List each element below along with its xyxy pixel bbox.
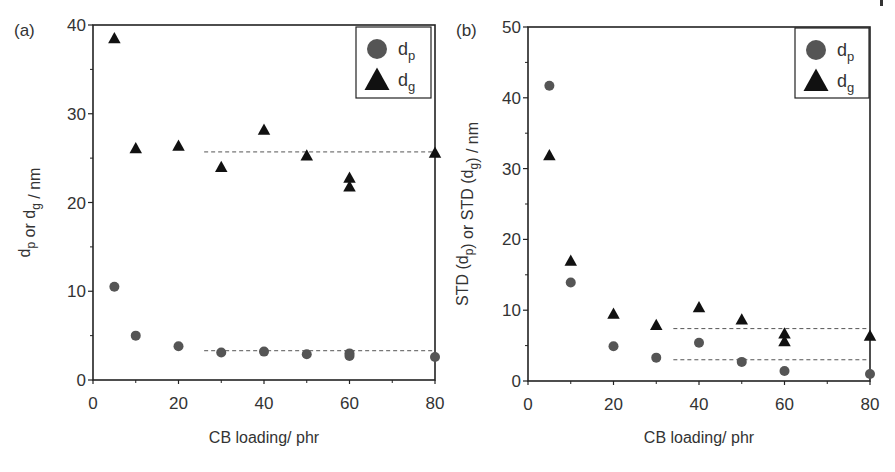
circle-marker-icon bbox=[174, 341, 184, 351]
y-axis-label: dp or dg / nm bbox=[16, 168, 43, 258]
circle-marker-icon bbox=[131, 331, 141, 341]
y-axis-label-part: ) / nm bbox=[464, 122, 481, 163]
x-tick-label: 60 bbox=[340, 394, 359, 413]
triangle-marker-icon bbox=[565, 254, 578, 265]
y-axis-label-subscript: g bbox=[467, 163, 481, 170]
triangle-marker-icon bbox=[736, 313, 749, 324]
x-tick-label: 40 bbox=[690, 395, 709, 414]
legend-circle-icon bbox=[367, 39, 387, 59]
y-tick-label: 10 bbox=[67, 282, 86, 301]
triangle-marker-icon bbox=[130, 142, 143, 153]
triangle-marker-icon bbox=[172, 139, 185, 150]
circle-marker-icon bbox=[109, 282, 119, 292]
y-axis-label-part: or d bbox=[21, 210, 38, 242]
y-tick-label: 20 bbox=[502, 230, 521, 249]
y-tick-label: 30 bbox=[502, 160, 521, 179]
triangle-marker-icon bbox=[543, 149, 556, 160]
legend-label-main: d bbox=[837, 71, 847, 91]
circle-marker-icon bbox=[609, 341, 619, 351]
y-axis-label-subscript: g bbox=[29, 203, 43, 210]
legend-label-subscript: p bbox=[408, 48, 415, 63]
triangle-marker-icon bbox=[108, 32, 121, 43]
legend-label-main: d bbox=[837, 40, 847, 60]
x-tick-label: 60 bbox=[775, 395, 794, 414]
x-tick-label: 20 bbox=[169, 394, 188, 413]
y-tick-label: 40 bbox=[67, 16, 86, 35]
legend-circle-icon bbox=[806, 40, 826, 60]
panel-b: 02040608001020304050CB loading/ phrSTD (… bbox=[454, 18, 879, 446]
series-d_p bbox=[109, 282, 440, 362]
panel-label: (b) bbox=[456, 21, 477, 40]
circle-marker-icon bbox=[216, 347, 226, 357]
circle-marker-icon bbox=[259, 347, 269, 357]
circle-marker-icon bbox=[651, 353, 661, 363]
y-tick-label: 10 bbox=[502, 301, 521, 320]
legend-label-main: d bbox=[398, 70, 408, 90]
circle-marker-icon bbox=[430, 352, 440, 362]
triangle-marker-icon bbox=[607, 307, 620, 318]
x-tick-label: 80 bbox=[426, 394, 445, 413]
series-d_p bbox=[544, 81, 875, 379]
x-tick-label: 40 bbox=[255, 394, 274, 413]
triangle-marker-icon bbox=[258, 123, 271, 134]
legend-label-subscript: g bbox=[847, 80, 854, 95]
panel-label: (a) bbox=[14, 21, 35, 40]
x-axis-label: CB loading/ phr bbox=[644, 429, 755, 446]
x-tick-label: 20 bbox=[604, 395, 623, 414]
panel-a: 020406080010203040CB loading/ phrdp or d… bbox=[14, 16, 444, 446]
y-tick-label: 20 bbox=[67, 194, 86, 213]
series-d_g bbox=[543, 149, 876, 346]
y-tick-label: 30 bbox=[67, 105, 86, 124]
y-tick-label: 50 bbox=[502, 18, 521, 37]
circle-marker-icon bbox=[737, 357, 747, 367]
y-tick-label: 0 bbox=[77, 371, 86, 390]
legend-label-subscript: g bbox=[408, 79, 415, 94]
legend-label-main: d bbox=[398, 39, 408, 59]
triangle-marker-icon bbox=[301, 149, 314, 160]
y-tick-label: 40 bbox=[502, 89, 521, 108]
triangle-marker-icon bbox=[215, 161, 228, 172]
x-axis-label: CB loading/ phr bbox=[209, 429, 320, 446]
circle-marker-icon bbox=[780, 366, 790, 376]
circle-marker-icon bbox=[566, 278, 576, 288]
legend: dpdg bbox=[795, 28, 869, 98]
y-axis-label-part: / nm bbox=[26, 168, 43, 204]
x-tick-label: 0 bbox=[88, 394, 97, 413]
circle-marker-icon bbox=[544, 81, 554, 91]
circle-marker-icon bbox=[345, 351, 355, 361]
triangle-marker-icon bbox=[693, 301, 706, 312]
circle-marker-icon bbox=[865, 369, 875, 379]
x-tick-label: 80 bbox=[861, 395, 880, 414]
circle-marker-icon bbox=[302, 349, 312, 359]
triangle-marker-icon bbox=[650, 319, 663, 330]
y-axis-label: STD (dp) or STD (dg) / nm bbox=[454, 122, 481, 306]
legend: dpdg bbox=[356, 27, 431, 98]
triangle-marker-icon bbox=[864, 329, 877, 340]
figure: 020406080010203040CB loading/ phrdp or d… bbox=[0, 0, 895, 472]
y-tick-label: 0 bbox=[512, 372, 521, 391]
circle-marker-icon bbox=[694, 338, 704, 348]
y-axis-label-part: d bbox=[16, 249, 33, 258]
y-axis-label-part: ) or STD (d bbox=[459, 170, 476, 249]
x-tick-label: 0 bbox=[523, 395, 532, 414]
y-axis-label-part: STD (d bbox=[454, 255, 471, 306]
legend-label-subscript: p bbox=[847, 49, 854, 64]
